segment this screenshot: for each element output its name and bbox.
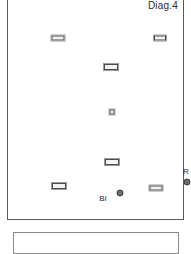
lower-panel-frame [13,232,179,254]
point-label-bl: Bl [99,194,107,203]
marker-rect-1 [52,36,65,41]
point-label-r: R [183,167,189,176]
marker-circle-r [184,179,191,186]
marker-rect-6 [52,183,66,189]
marker-rect-4 [110,110,115,115]
diagram-frame: Diag.4 Bl R [7,0,184,220]
marker-circle-bl [117,190,124,197]
marker-rect-7 [150,186,163,191]
marker-rect-2 [154,36,166,41]
plot-area: Bl R [8,0,183,219]
marker-rect-3 [104,64,118,70]
marker-rect-5 [105,159,119,165]
